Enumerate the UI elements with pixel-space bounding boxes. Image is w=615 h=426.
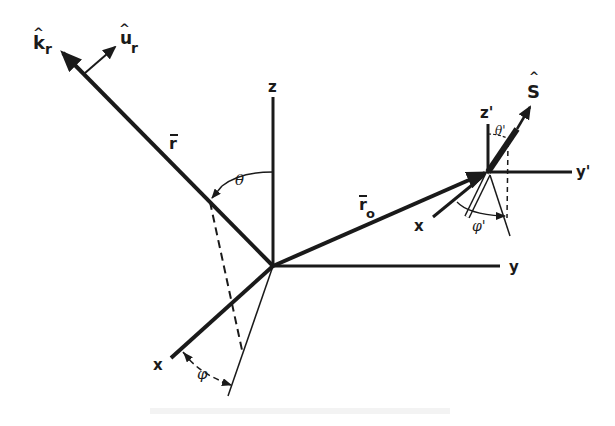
s-label: S xyxy=(527,81,540,102)
s-dashed-drop xyxy=(507,142,508,218)
r-dashed-drop xyxy=(210,202,242,350)
z-prime-label: z' xyxy=(480,104,493,122)
r-vector xyxy=(63,53,273,266)
u-r-subscript: r xyxy=(131,40,138,56)
theta-prime-label: θ' xyxy=(495,124,506,138)
y-prime-label: y' xyxy=(576,163,590,181)
z-axis-label: z xyxy=(268,78,277,96)
r-o-subscript: o xyxy=(366,206,375,221)
main-axes xyxy=(171,97,500,358)
phi-prime-arc xyxy=(457,202,502,216)
theta-label: θ xyxy=(235,171,244,189)
coordinate-diagram: z y x ^ k r ^ u r r r o θ φ z' y' x ^ S … xyxy=(0,0,615,426)
y-axis-label: y xyxy=(509,258,519,276)
x-axis-label: x xyxy=(153,356,163,374)
phi-label: φ xyxy=(197,365,208,383)
s-vector xyxy=(517,107,530,129)
u-r-vector xyxy=(85,47,115,73)
phi-prime-label: φ' xyxy=(472,218,486,234)
r-label: r xyxy=(169,134,177,153)
k-r-subscript: r xyxy=(45,41,52,57)
r-o-vector xyxy=(273,173,485,266)
x-prime-label: x xyxy=(414,217,424,235)
theta-arc xyxy=(222,172,273,186)
